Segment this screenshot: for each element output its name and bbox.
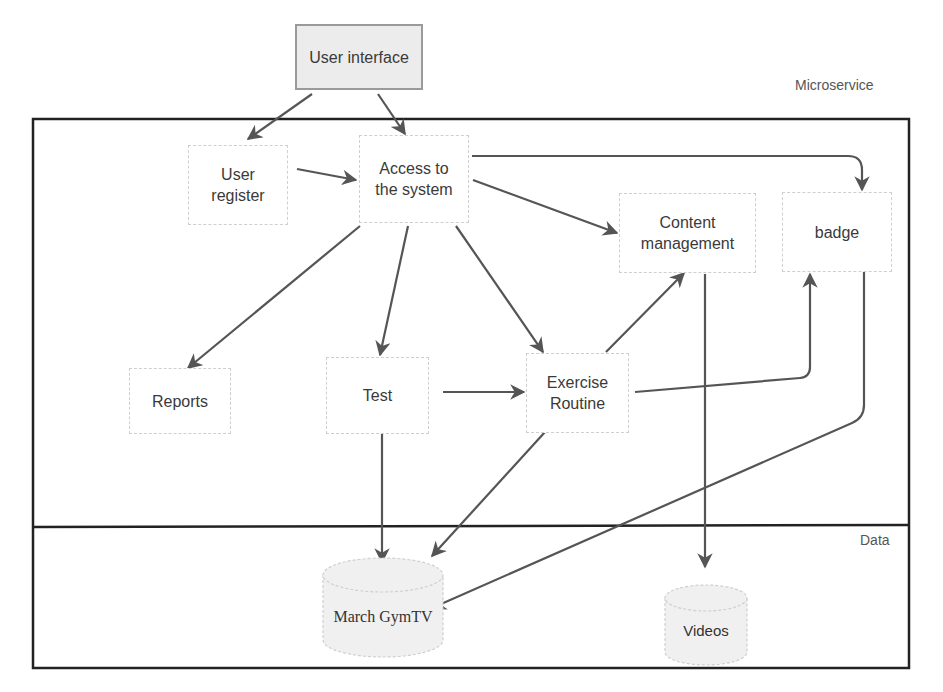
lane-divider	[33, 525, 909, 527]
node-test: Test	[326, 357, 429, 434]
node-label: Reports	[152, 391, 208, 412]
architecture-diagram: Microservice Data User interface User re…	[0, 0, 943, 692]
database-label-march-gymtv: March GymTV	[323, 608, 443, 626]
node-label: Exercise Routine	[547, 372, 608, 414]
lane-label-data: Data	[860, 532, 890, 548]
diagram-connectors	[0, 0, 943, 692]
node-user-register: User register	[188, 145, 288, 225]
node-label: Content management	[641, 212, 734, 254]
node-user-interface: User interface	[295, 24, 423, 90]
node-label: User register	[211, 164, 264, 206]
node-reports: Reports	[129, 368, 231, 434]
node-badge: badge	[782, 192, 892, 272]
node-label: Test	[363, 385, 392, 406]
node-label: User interface	[309, 47, 409, 68]
node-content-management: Content management	[619, 193, 756, 273]
node-label: badge	[815, 222, 860, 243]
node-access-to-the-system: Access to the system	[359, 135, 469, 223]
node-exercise-routine: Exercise Routine	[526, 353, 629, 433]
database-label-videos: Videos	[665, 622, 747, 639]
lane-label-microservice: Microservice	[795, 77, 874, 93]
node-label: Access to the system	[375, 158, 452, 200]
